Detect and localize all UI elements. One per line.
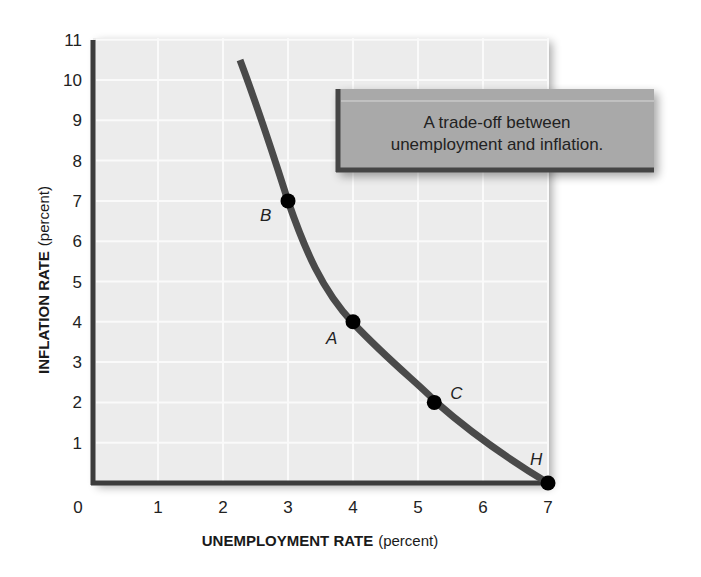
point-label-h: H [530, 450, 543, 469]
phillips-curve-chart: 1234567891011 01234567 BACH A trade-off … [0, 0, 701, 577]
point-label-a: A [325, 329, 337, 348]
y-tick-label: 6 [73, 232, 82, 251]
y-tick-label: 2 [73, 393, 82, 412]
x-tick-label: 0 [73, 498, 82, 517]
y-tick-label: 11 [64, 31, 82, 50]
y-tick-label: 7 [73, 192, 82, 211]
point-h [541, 476, 556, 491]
y-tick-label: 10 [63, 71, 82, 90]
point-b [281, 193, 296, 208]
y-tick-label: 8 [73, 152, 82, 171]
point-a [346, 314, 361, 329]
y-tick-labels: 1234567891011 [63, 31, 82, 453]
point-c [427, 395, 442, 410]
y-tick-label: 9 [73, 111, 82, 130]
y-tick-label: 1 [73, 434, 82, 453]
x-axis-title: UNEMPLOYMENT RATE(percent) [202, 532, 438, 549]
point-label-c: C [450, 384, 463, 403]
x-tick-label: 5 [413, 498, 422, 517]
y-axis-title: INFLATION RATE(percent) [35, 186, 52, 374]
y-tick-label: 4 [73, 313, 82, 332]
y-tick-label: 3 [73, 353, 82, 372]
x-tick-label: 1 [153, 498, 162, 517]
x-tick-labels: 01234567 [73, 498, 552, 517]
x-tick-label: 6 [478, 498, 487, 517]
y-tick-label: 5 [73, 273, 82, 292]
annotation-line-2: unemployment and inflation. [391, 135, 604, 154]
x-tick-label: 7 [543, 498, 552, 517]
x-tick-label: 4 [348, 498, 357, 517]
annotation-line-1: A trade-off between [423, 113, 570, 132]
x-tick-label: 3 [283, 498, 292, 517]
x-tick-label: 2 [218, 498, 227, 517]
point-label-b: B [260, 206, 271, 225]
